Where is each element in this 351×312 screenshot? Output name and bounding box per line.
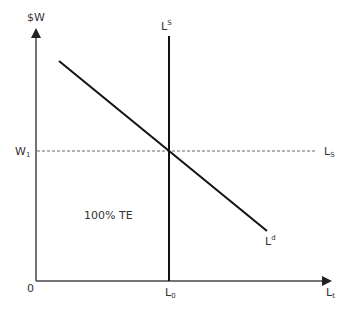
horizontal-supply-label: LS — [324, 146, 335, 159]
wage-label-sub: 1 — [26, 151, 30, 159]
demand-label: Ld — [265, 235, 276, 247]
quantity-label-sub: 0 — [171, 292, 175, 300]
origin-label: 0 — [27, 283, 34, 294]
demand-label-sup: d — [271, 234, 275, 242]
demand-line — [59, 61, 267, 231]
origin-label-text: 0 — [27, 282, 34, 295]
x-axis-label: Lt — [326, 287, 335, 300]
horizontal-supply-label-sub: S — [330, 151, 334, 159]
region-label: 100% TE — [84, 210, 133, 221]
labor-market-diagram: $W LS W1 LS 100% TE Ld 0 L0 Lt — [0, 0, 351, 312]
vertical-supply-label: LS — [161, 20, 172, 32]
region-label-text: 100% TE — [84, 209, 133, 222]
vertical-supply-label-sup: S — [167, 19, 171, 27]
wage-label-base: W — [15, 145, 26, 158]
diagram-canvas — [0, 0, 351, 312]
x-axis-label-sub: t — [332, 292, 335, 300]
y-axis-label: $W — [27, 12, 45, 23]
y-axis-label-text: $W — [27, 11, 45, 24]
quantity-label: L0 — [165, 287, 176, 300]
wage-label: W1 — [15, 146, 30, 159]
